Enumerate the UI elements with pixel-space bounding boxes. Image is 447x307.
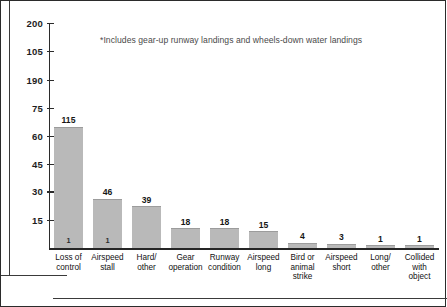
x-axis-category-label: Runwaycondition (205, 253, 244, 272)
x-axis-category-label: Loss ofcontrol (49, 253, 88, 272)
category-label-line: strike (283, 272, 322, 282)
x-axis-category-labels: Loss ofcontrolAirspeedstallHard/otherGea… (49, 253, 439, 299)
category-label-line: Hard/ (127, 253, 166, 263)
bar-column[interactable]: 1151 (49, 23, 88, 248)
category-label-line: other (127, 263, 166, 273)
category-label-line: Gear (166, 253, 205, 263)
x-axis-category-label: Gearoperation (166, 253, 205, 272)
bar[interactable] (405, 245, 435, 248)
category-label-line: operation (166, 263, 205, 273)
x-axis-line (49, 248, 439, 250)
bar[interactable] (327, 244, 357, 248)
x-axis-category-label: Airspeedshort (322, 253, 361, 272)
bar-inner-mark: 1 (88, 236, 127, 245)
x-axis-category-label: Airspeedstall (88, 253, 127, 272)
bar-value-label: 3 (322, 232, 361, 242)
bar-column[interactable]: 1 (361, 23, 400, 248)
bar-column[interactable]: 39 (127, 23, 166, 248)
y-axis-tick-label: 75 (32, 102, 43, 113)
x-axis-category-label: Hard/other (127, 253, 166, 272)
bar-value-label: 46 (88, 187, 127, 197)
bar-column[interactable]: 1 (400, 23, 439, 248)
bar-column[interactable]: 3 (322, 23, 361, 248)
page-rule-left (9, 1, 10, 276)
category-label-line: Airspeed (244, 253, 283, 263)
bar[interactable] (132, 206, 162, 248)
bar[interactable] (249, 231, 279, 248)
bar-series: 1151461391818154311 (49, 23, 439, 248)
bar-column[interactable]: 4 (283, 23, 322, 248)
bar[interactable] (210, 228, 240, 248)
category-label-line: other (361, 263, 400, 273)
bar-column[interactable]: 18 (205, 23, 244, 248)
y-axis-tick-label: 60 (32, 131, 43, 142)
category-label-line: long (244, 263, 283, 273)
category-label-line: object (400, 272, 439, 282)
category-label-line: control (49, 263, 88, 273)
bar[interactable] (171, 228, 201, 248)
bar-value-label: 1 (400, 234, 439, 244)
category-label-line: Airspeed (88, 253, 127, 263)
category-label-line: Runway (205, 253, 244, 263)
category-label-line: condition (205, 263, 244, 273)
category-label-line: Long/ (361, 253, 400, 263)
bar-value-label: 18 (166, 217, 205, 227)
bar-value-label: 15 (244, 220, 283, 230)
y-axis-tick-label: 15 (32, 214, 43, 225)
x-axis-category-label: Collidedwithobject (400, 253, 439, 282)
y-axis-tick-label: 45 (32, 159, 43, 170)
bar-value-label: 1 (361, 234, 400, 244)
category-label-line: Bird or (283, 253, 322, 263)
y-axis-tick-label: 200 (27, 18, 43, 29)
bar-value-label: 39 (127, 195, 166, 205)
category-label-line: Loss of (49, 253, 88, 263)
x-axis-category-label: Airspeedlong (244, 253, 283, 272)
y-axis-tick-label: 105 (27, 46, 43, 57)
bar[interactable] (288, 243, 318, 248)
bar-value-label: 18 (205, 217, 244, 227)
chart-plot-area: 2001051907560453015 1151461391818154311 (49, 23, 439, 248)
y-axis-tick-label: 190 (27, 74, 43, 85)
bar-value-label: 4 (283, 231, 322, 241)
bar-value-label: 115 (49, 115, 88, 125)
bar-inner-mark: 1 (49, 236, 88, 245)
category-label-line: short (322, 263, 361, 273)
category-label-line: Collided (400, 253, 439, 263)
bar[interactable] (54, 127, 84, 248)
y-axis-tick-label: 30 (32, 186, 43, 197)
bar-column[interactable]: 18 (166, 23, 205, 248)
x-axis-category-label: Long/other (361, 253, 400, 272)
bar-column[interactable]: 15 (244, 23, 283, 248)
category-label-line: stall (88, 263, 127, 273)
category-label-line: Airspeed (322, 253, 361, 263)
category-label-line: with (400, 263, 439, 273)
x-axis-category-label: Bird oranimalstrike (283, 253, 322, 282)
bar-column[interactable]: 461 (88, 23, 127, 248)
category-label-line: animal (283, 263, 322, 273)
bar[interactable] (366, 245, 396, 248)
